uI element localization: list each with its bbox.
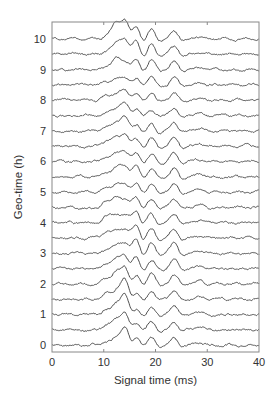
x-tick-label: 10 [98, 356, 110, 368]
waveform-trace [52, 76, 259, 87]
waveform-chart: 010203040 012345678910 Signal time (ms) … [0, 0, 275, 396]
x-axis-ticks: 010203040 [49, 22, 265, 368]
waveform-trace [52, 183, 259, 195]
waveform-trace [52, 266, 259, 286]
trace-group [52, 19, 259, 348]
waveform-trace [52, 211, 259, 225]
waveform-trace [52, 254, 259, 271]
waveform-trace [52, 89, 259, 102]
y-tick-label: 6 [40, 155, 46, 167]
y-tick-label: 0 [40, 339, 46, 351]
waveform-trace [52, 239, 259, 256]
x-tick-label: 40 [253, 356, 265, 368]
y-axis-label: Geo-time (h) [12, 155, 24, 220]
y-tick-label: 5 [40, 186, 46, 198]
y-tick-label: 10 [34, 33, 46, 45]
y-tick-label: 7 [40, 125, 46, 137]
y-tick-label: 1 [40, 308, 46, 320]
waveform-trace [52, 278, 259, 301]
waveform-trace [52, 38, 259, 56]
waveform-trace [52, 116, 259, 134]
waveform-trace [52, 134, 259, 149]
waveform-trace [52, 196, 259, 209]
waveform-trace [52, 225, 259, 241]
waveform-trace [52, 293, 259, 316]
waveform-trace [52, 312, 259, 333]
y-tick-label: 9 [40, 64, 46, 76]
y-tick-label: 8 [40, 94, 46, 106]
waveform-trace [52, 57, 259, 72]
waveform-trace [52, 164, 259, 179]
x-tick-label: 20 [149, 356, 161, 368]
y-tick-label: 4 [40, 217, 46, 229]
y-tick-label: 2 [40, 278, 46, 290]
waveform-trace [52, 150, 259, 164]
x-axis-label: Signal time (ms) [114, 374, 197, 386]
x-tick-label: 0 [49, 356, 55, 368]
y-tick-label: 3 [40, 247, 46, 259]
x-tick-label: 30 [201, 356, 213, 368]
y-axis-ticks: 012345678910 [34, 33, 46, 351]
waveform-trace [52, 102, 259, 117]
